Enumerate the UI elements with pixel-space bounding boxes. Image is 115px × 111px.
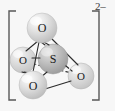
atom-bottom-oxygen <box>19 71 47 99</box>
sulfate-ion-figure: O O S O O 2– <box>0 0 115 111</box>
atom-right-oxygen <box>68 63 94 89</box>
atom-central-sulfur <box>38 44 68 74</box>
molecule-diagram-canvas <box>0 0 115 111</box>
atom-top-oxygen <box>27 13 57 43</box>
charge-label: 2– <box>95 1 106 12</box>
atom-left-oxygen <box>10 47 36 73</box>
